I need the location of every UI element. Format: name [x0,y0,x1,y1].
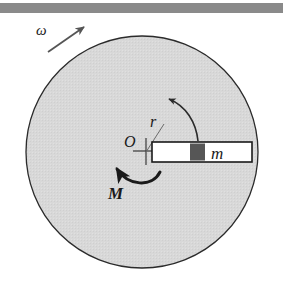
physics-diagram-figure: ω O r M m [0,0,283,282]
angular-velocity-arrow [48,27,84,52]
sliding-mass-block [190,144,205,161]
radius-label: r [150,113,157,130]
page-edge-bar [0,3,283,13]
mass-label: m [211,144,223,163]
omega-label: ω [36,22,47,38]
diagram-canvas: ω O r M m [0,0,283,282]
origin-label: O [124,133,136,150]
moment-label: M [107,184,124,203]
